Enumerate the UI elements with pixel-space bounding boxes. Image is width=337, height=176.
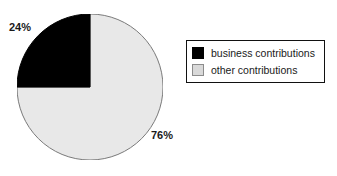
pie-svg [17,14,163,160]
legend-item-business-contributions: business contributions [192,45,320,61]
legend-swatch-gray [192,64,204,76]
legend-label-other-contributions: other contributions [211,64,297,76]
pie-label-other-contributions: 76% [151,129,173,141]
pie-label-business-contributions: 24% [9,21,31,33]
pie-chart-graphic [17,14,163,160]
legend-item-other-contributions: other contributions [192,62,320,78]
legend-label-business-contributions: business contributions [211,47,315,59]
chart-legend: business contributions other contributio… [186,40,325,83]
pie-chart-figure: 24% 76% business contributions other con… [0,0,337,176]
legend-swatch-black [192,47,204,59]
